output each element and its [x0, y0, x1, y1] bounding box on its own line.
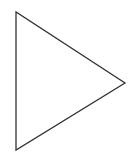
triangle-shape: [16, 12, 125, 150]
diagram-canvas: [0, 0, 139, 162]
